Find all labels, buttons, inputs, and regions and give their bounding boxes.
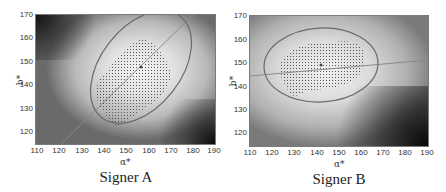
x-tick: 170: [161, 147, 181, 155]
scatter-plot-signer-a: [36, 15, 215, 144]
x-tick: 140: [94, 147, 114, 155]
caption-signer-b: Signer B: [279, 171, 399, 188]
y-tick: 150: [229, 59, 247, 67]
x-tick: 190: [204, 147, 224, 155]
caption-signer-a: Signer A: [66, 169, 186, 186]
y-tick: 130: [229, 106, 247, 114]
regression-line: [61, 15, 193, 144]
y-tick: 170: [229, 12, 247, 20]
y-axis-label-a: b*: [15, 75, 25, 85]
y-tick: 150: [15, 58, 33, 66]
y-axis-label-b: b*: [228, 76, 238, 86]
y-tick: 160: [229, 36, 247, 44]
x-tick: 150: [329, 149, 349, 157]
y-tick: 160: [15, 34, 33, 42]
x-tick: 130: [284, 149, 304, 157]
plot-area-signer-a: [35, 14, 216, 145]
x-tick: 150: [116, 147, 136, 155]
scatter-plot-signer-b: [250, 16, 428, 146]
x-tick: 160: [351, 149, 371, 157]
x-tick: 110: [27, 147, 47, 155]
panel-signer-a: 170 160 150 140 130 120 b* 110 120 130 1…: [0, 0, 223, 192]
plot-area-signer-b: [249, 15, 429, 147]
x-tick: 180: [183, 147, 203, 155]
x-tick: 120: [49, 147, 69, 155]
x-axis-label-a: α*: [120, 157, 131, 167]
data-points: [36, 15, 215, 144]
x-tick: 160: [139, 147, 159, 155]
x-tick: 130: [72, 147, 92, 155]
y-tick: 170: [15, 11, 33, 19]
y-tick: 130: [15, 105, 33, 113]
x-tick: 180: [395, 149, 415, 157]
centroid-marker: [140, 66, 143, 69]
x-tick: 140: [307, 149, 327, 157]
x-tick: 170: [373, 149, 393, 157]
y-tick: 120: [229, 129, 247, 137]
y-tick: 120: [15, 128, 33, 136]
data-points: [250, 16, 428, 146]
x-tick: 190: [417, 149, 437, 157]
x-tick: 110: [240, 149, 260, 157]
centroid-marker: [320, 64, 323, 67]
panel-signer-b: 170 160 150 140 130 120 b* 110 120 130 1…: [223, 0, 446, 192]
x-tick: 120: [262, 149, 282, 157]
x-axis-label-b: α*: [334, 159, 345, 169]
